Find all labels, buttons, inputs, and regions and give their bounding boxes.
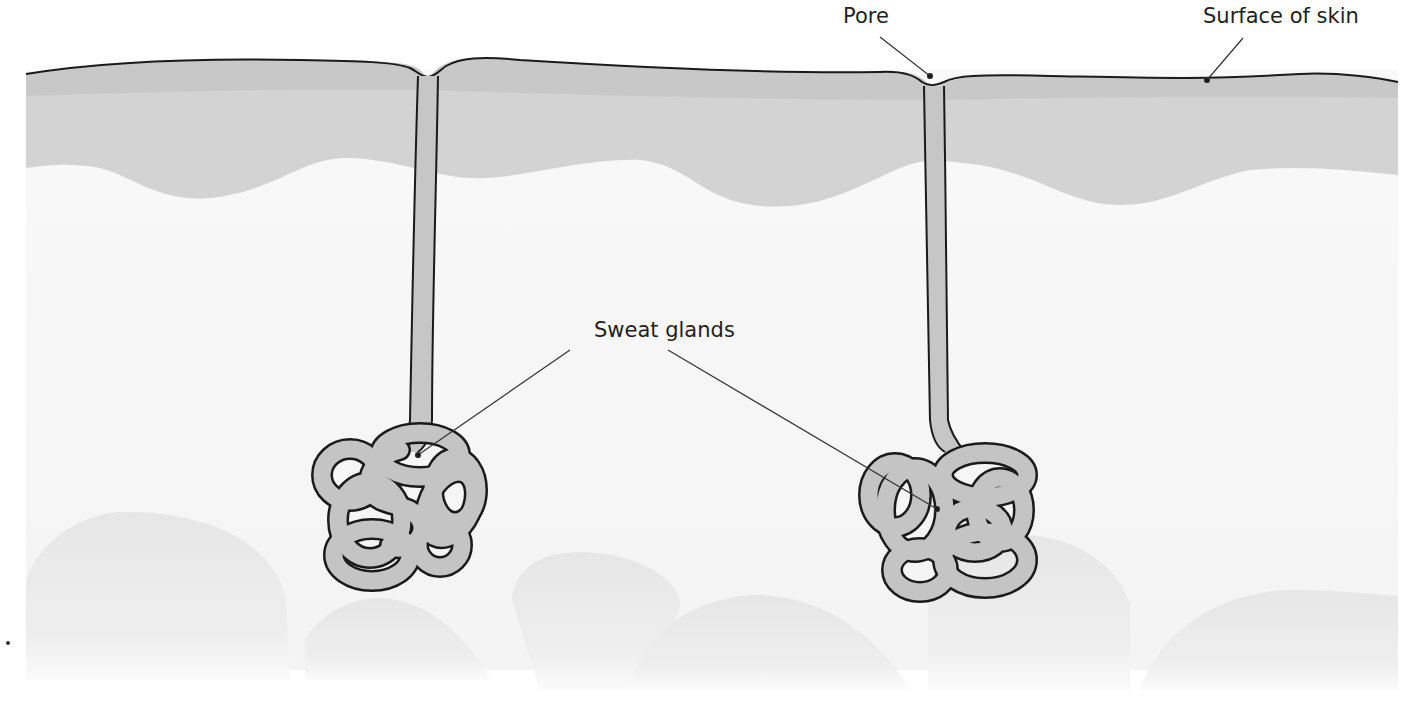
stray-dot — [6, 641, 10, 645]
surface-of-skin-label: Surface of skin — [1203, 4, 1359, 28]
pore-label: Pore — [843, 4, 889, 28]
skin-diagram — [0, 0, 1416, 702]
sweat-glands-label: Sweat glands — [594, 318, 735, 342]
